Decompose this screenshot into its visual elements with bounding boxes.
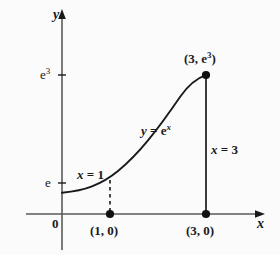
right-bound-label: x = 3 bbox=[211, 143, 238, 156]
point-marker-1-0 bbox=[106, 210, 114, 218]
point-label-3-0: (3, 0) bbox=[186, 224, 214, 237]
y-tick-e3-exponent: 3 bbox=[46, 66, 51, 76]
right-bound-value: 3 bbox=[231, 142, 238, 157]
point-marker-3-0 bbox=[202, 210, 210, 218]
y-axis-arrowhead bbox=[58, 9, 66, 19]
curve-label-equals: = bbox=[147, 123, 161, 138]
left-bound-label: x = 1 bbox=[77, 168, 104, 181]
y-tick-label-e-cubed: e3 bbox=[40, 68, 50, 81]
curve-label-exponent: x bbox=[166, 122, 171, 132]
figure-canvas bbox=[0, 0, 280, 255]
curve-equation-label: y = ex bbox=[141, 124, 171, 137]
point-3-e3-base: (3, e bbox=[184, 51, 207, 66]
point-marker-3-e3 bbox=[202, 71, 210, 79]
left-bound-equals: = bbox=[84, 167, 98, 182]
point-label-1-0: (1, 0) bbox=[90, 224, 118, 237]
x-axis-label: x bbox=[257, 217, 264, 231]
y-tick-label-e: e bbox=[45, 176, 51, 189]
exponential-curve-figure: y x 0 e3 e y = ex x = 1 x = 3 (1, 0) (3,… bbox=[0, 0, 280, 255]
point-label-3-e-cubed: (3, e3) bbox=[184, 52, 216, 65]
origin-label: 0 bbox=[52, 217, 59, 230]
right-bound-equals: = bbox=[218, 142, 232, 157]
left-bound-value: 1 bbox=[97, 167, 104, 182]
y-axis-label: y bbox=[53, 8, 59, 22]
point-3-e3-close: ) bbox=[212, 51, 216, 66]
